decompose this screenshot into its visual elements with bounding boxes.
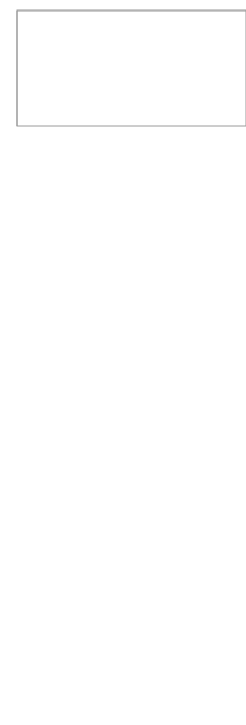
cluster-linkage-diagram [17, 10, 246, 126]
frame [17, 11, 246, 126]
frame-top-edge [17, 10, 246, 126]
diagram-canvas [0, 0, 246, 725]
